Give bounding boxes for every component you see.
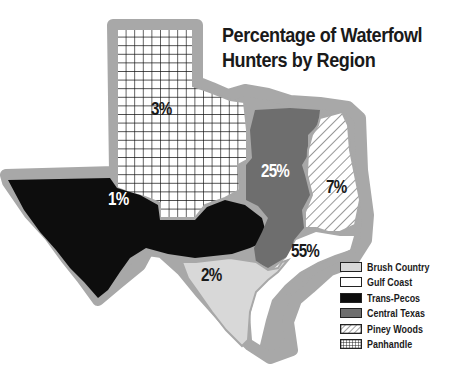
legend-item-gulf-coast: Gulf Coast [340,275,441,291]
swatch-central-texas [340,308,362,318]
swatch-gulf-coast [340,277,362,287]
swatch-panhandle [340,339,362,349]
label-trans-pecos: 1% [108,188,128,210]
label-central-texas: 25% [261,160,289,182]
swatch-brush-country [340,262,362,272]
map-title: Percentage of Waterfowl Hunters by Regio… [222,22,422,72]
title-line-1: Percentage of Waterfowl [222,22,422,47]
label-brush-country: 2% [201,264,221,286]
label-gulf-coast: 55% [291,240,319,262]
map-legend: Brush Country Gulf Coast Trans-Pecos Cen… [340,259,441,352]
legend-item-central-texas: Central Texas [340,306,441,322]
swatch-piney-woods [340,324,362,334]
legend-item-piney-woods: Piney Woods [340,321,441,337]
label-panhandle: 3% [151,98,171,120]
legend-item-brush-country: Brush Country [340,259,441,275]
swatch-trans-pecos [340,293,362,303]
legend-item-panhandle: Panhandle [340,337,441,353]
title-line-2: Hunters by Region [222,47,422,72]
label-piney-woods: 7% [326,176,346,198]
legend-item-trans-pecos: Trans-Pecos [340,290,441,306]
